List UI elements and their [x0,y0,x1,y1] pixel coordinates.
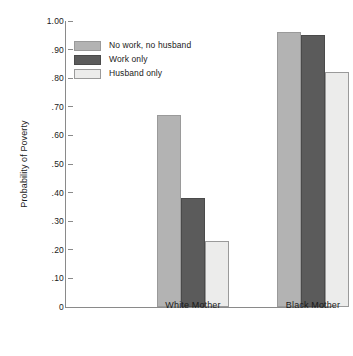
y-tick: .70 [3,101,73,113]
legend: No work, no husbandWork onlyHusband only [74,39,234,81]
legend-item: Work only [74,53,234,66]
y-tick-label: .60 [12,129,64,141]
y-tick-mark [68,249,73,250]
bar [157,115,181,307]
y-tick-mark [68,21,73,22]
y-tick: .40 [3,187,73,199]
x-axis-label: Black Mother [253,300,353,310]
y-tick-label: .80 [12,72,64,84]
y-tick-mark [68,164,73,165]
y-tick-label: .70 [12,101,64,113]
y-tick-mark [68,278,73,279]
bar [301,35,325,307]
y-tick-label: .10 [12,272,64,284]
y-tick-mark [68,106,73,107]
y-tick-mark [68,221,73,222]
y-tick-label: .20 [12,244,64,256]
y-tick: .50 [3,158,73,170]
y-tick: .20 [3,244,73,256]
y-tick: .30 [3,215,73,227]
y-tick: 1.00 [3,15,73,27]
y-tick-label: .30 [12,215,64,227]
y-tick: 0 [3,301,73,313]
bar [205,241,229,307]
legend-swatch [74,55,101,65]
x-axis-label: White Mother [133,300,253,310]
y-tick-label: 0 [12,301,64,313]
y-tick-mark [68,49,73,50]
y-tick: .80 [3,72,73,84]
legend-item: Husband only [74,67,234,80]
bar [181,198,205,307]
legend-item: No work, no husband [74,39,234,52]
legend-label: No work, no husband [109,40,191,51]
legend-label: Work only [109,54,148,65]
bar [325,72,349,307]
y-tick-label: 1.00 [12,15,64,27]
y-tick: .90 [3,44,73,56]
y-tick-mark [68,135,73,136]
legend-swatch [74,69,101,79]
y-tick-mark [68,78,73,79]
y-tick-mark [68,192,73,193]
bar [277,32,301,307]
y-tick-label: .50 [12,158,64,170]
y-tick: .10 [3,272,73,284]
legend-swatch [74,41,101,51]
y-tick-label: .90 [12,44,64,56]
y-tick: .60 [3,129,73,141]
y-tick-label: .40 [12,187,64,199]
legend-label: Husband only [109,68,162,79]
